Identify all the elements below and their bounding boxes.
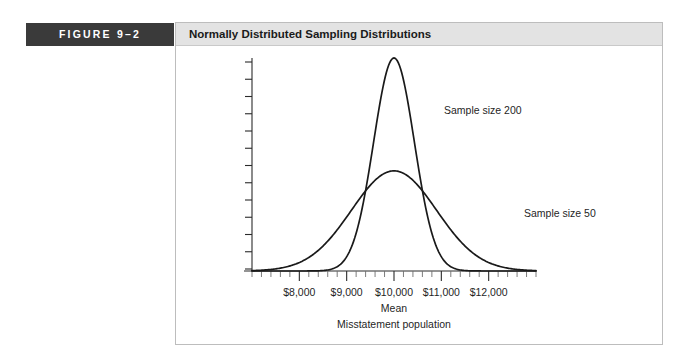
figure-title-bar: Normally Distributed Sampling Distributi… xyxy=(176,23,662,46)
x-axis-tick-label: $11,000 xyxy=(423,286,460,298)
y-axis-ticks xyxy=(245,62,252,269)
x-axis-tick-label: $9,000 xyxy=(331,286,363,298)
x-axis-caption-population: Misstatement population xyxy=(337,318,451,330)
curve-sample-size-200 xyxy=(252,58,536,271)
x-axis-caption-mean: Mean xyxy=(381,302,407,314)
distribution-chart: Sample size 200 Sample size 50 $8,000$9,… xyxy=(176,46,662,344)
x-axis-tick-label: $8,000 xyxy=(283,286,315,298)
curve-sample-size-50 xyxy=(252,171,536,271)
figure-title: Normally Distributed Sampling Distributi… xyxy=(189,23,431,46)
figure-number-tab: FIGURE 9–2 xyxy=(26,23,174,46)
chart-axes xyxy=(244,58,536,271)
figure-root: FIGURE 9–2 Normally Distributed Sampling… xyxy=(0,0,696,364)
x-axis-tick-label: $10,000 xyxy=(375,286,413,298)
figure-panel: Normally Distributed Sampling Distributi… xyxy=(175,22,663,345)
x-axis-tick-label: $12,000 xyxy=(470,286,508,298)
curve-label-sample-size-50: Sample size 50 xyxy=(524,207,596,219)
plot-area: Sample size 200 Sample size 50 $8,000$9,… xyxy=(176,46,662,344)
figure-number-label: FIGURE 9–2 xyxy=(26,23,174,46)
x-axis-ticks xyxy=(252,271,536,281)
x-axis-tick-labels: $8,000$9,000$10,000$11,000$12,000 xyxy=(283,286,508,298)
curve-label-sample-size-200: Sample size 200 xyxy=(444,104,522,116)
